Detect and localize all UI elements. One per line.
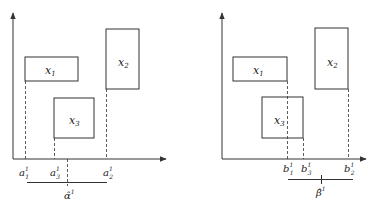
- left-estimate-alpha: α̂1: [64, 188, 75, 201]
- right-label-x1: x1: [253, 64, 264, 78]
- diagram-canvas: x1 x2 x3 a11 a13 a12 α̂1 x1 x2 x3 b11 b1…: [0, 0, 383, 211]
- left-tick-a1: a11: [19, 165, 29, 180]
- left-label-x1: x1: [45, 64, 56, 78]
- left-label-x2: x2: [118, 56, 129, 70]
- left-tick-a2: a12: [103, 165, 113, 180]
- right-label-x3: x3: [274, 114, 285, 128]
- right-tick-b3: b13: [301, 161, 312, 176]
- left-tick-a3: a13: [50, 165, 60, 180]
- left-label-x3: x3: [69, 114, 80, 128]
- left-panel: x1 x2 x3 a11 a13 a12 α̂1: [13, 13, 166, 201]
- right-box-x3: [262, 97, 303, 138]
- right-label-x2: x2: [327, 56, 338, 70]
- diagram-svg: x1 x2 x3 a11 a13 a12 α̂1 x1 x2 x3 b11 b1…: [0, 0, 383, 211]
- right-tick-b1: b11: [283, 161, 294, 176]
- right-panel: x1 x2 x3 b11 b13 b12 β̂1: [222, 13, 366, 198]
- right-estimate-beta: β̂1: [315, 185, 326, 198]
- right-tick-b2: b12: [344, 161, 355, 176]
